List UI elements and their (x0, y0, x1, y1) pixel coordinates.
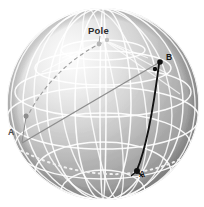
pole-label: Pole (88, 26, 109, 36)
midpoint-faint-marker (40, 150, 44, 154)
point-a-bottom-label: A (139, 170, 145, 179)
point-b-label: B (166, 53, 172, 62)
point-b-marker (157, 59, 163, 65)
point-a-left-label: A (8, 128, 14, 137)
point-b-secondary-marker (153, 67, 157, 71)
sphere-geodesic-figure: Pole B A A (0, 0, 204, 207)
